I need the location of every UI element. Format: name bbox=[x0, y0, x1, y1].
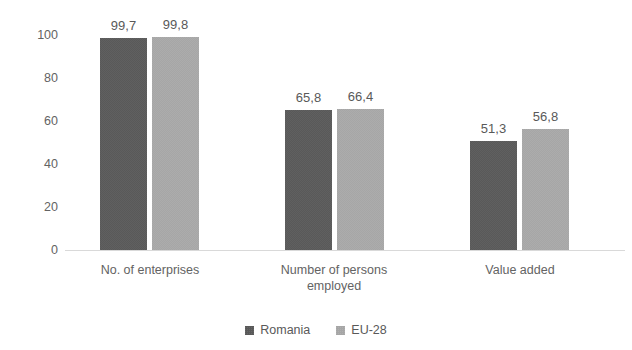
category-label-persons-employed-line-1: Number of persons bbox=[254, 262, 414, 278]
legend-item-eu28[interactable]: EU-28 bbox=[336, 324, 386, 337]
value-label-romania-enterprises: 99,7 bbox=[100, 19, 147, 33]
x-axis-line bbox=[65, 250, 625, 251]
bar-romania-persons-employed bbox=[285, 110, 332, 250]
category-label-value-added: Value added bbox=[455, 262, 585, 278]
y-tick-label-60: 60 bbox=[12, 115, 58, 127]
plot-area: 100 80 60 40 20 0 99,7 99,8 No. of enter… bbox=[0, 0, 632, 350]
legend-label-eu28: EU-28 bbox=[351, 324, 386, 337]
y-tick-label-40: 40 bbox=[12, 158, 58, 170]
legend-label-romania: Romania bbox=[260, 324, 310, 337]
y-tick-label-20: 20 bbox=[12, 201, 58, 213]
bar-eu28-persons-employed bbox=[337, 109, 384, 250]
y-axis: 100 80 60 40 20 0 bbox=[0, 0, 58, 350]
chart-legend: Romania EU-28 bbox=[0, 324, 632, 337]
category-label-persons-employed: Number of persons employed bbox=[254, 262, 414, 294]
y-tick-label-80: 80 bbox=[12, 72, 58, 84]
category-label-value-added-line-1: Value added bbox=[455, 262, 585, 278]
y-tick-label-100: 100 bbox=[12, 29, 58, 41]
value-label-romania-persons-employed: 65,8 bbox=[285, 91, 332, 105]
value-label-romania-value-added: 51,3 bbox=[470, 122, 517, 136]
value-label-eu28-enterprises: 99,8 bbox=[152, 18, 199, 32]
y-tick-label-0: 0 bbox=[12, 244, 58, 256]
category-label-enterprises: No. of enterprises bbox=[70, 262, 230, 278]
value-label-eu28-persons-employed: 66,4 bbox=[337, 90, 384, 104]
value-label-eu28-value-added: 56,8 bbox=[522, 110, 569, 124]
category-label-enterprises-line-1: No. of enterprises bbox=[70, 262, 230, 278]
bar-romania-enterprises bbox=[100, 38, 147, 250]
legend-swatch-icon-eu28 bbox=[336, 326, 345, 335]
bar-romania-value-added bbox=[470, 141, 517, 250]
legend-item-romania[interactable]: Romania bbox=[245, 324, 310, 337]
bar-chart: 100 80 60 40 20 0 99,7 99,8 No. of enter… bbox=[0, 0, 632, 350]
legend-swatch-icon-romania bbox=[245, 326, 254, 335]
bar-eu28-enterprises bbox=[152, 37, 199, 250]
bar-eu28-value-added bbox=[522, 129, 569, 250]
category-label-persons-employed-line-2: employed bbox=[254, 278, 414, 294]
